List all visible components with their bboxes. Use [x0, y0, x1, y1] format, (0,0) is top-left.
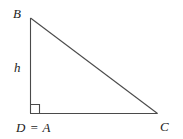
side-label-h: h [14, 61, 21, 74]
right-angle-marker-icon [31, 105, 40, 114]
triangle-drawing [0, 0, 183, 139]
vertex-label-b: B [13, 7, 21, 20]
right-triangle-figure: B h D = A C [0, 0, 183, 139]
vertex-label-d-equals-a: D = A [16, 121, 51, 134]
vertex-label-c: C [160, 120, 169, 133]
triangle-hypotenuse [31, 18, 158, 114]
